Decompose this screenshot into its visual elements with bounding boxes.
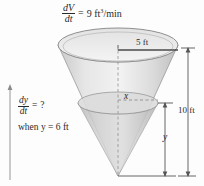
water-height-label-y: y — [163, 133, 167, 143]
dy-dt-fraction: dy dt — [18, 96, 29, 116]
left-up-arrow — [8, 84, 13, 180]
per-minute-unit: /min — [103, 8, 121, 19]
equals-sign: = — [78, 8, 84, 19]
water-radius-label-x: x — [124, 92, 128, 102]
volume-rate-number: 9 ft — [87, 8, 101, 19]
dy-numerator: dy — [18, 96, 29, 107]
dt-denominator: dt — [62, 14, 75, 24]
rate-of-volume-equation: dV dt = 9 ft3/min — [62, 3, 122, 24]
volume-rate-value: 9 ft3/min — [87, 8, 122, 20]
condition-label: when y = 6 ft — [18, 123, 69, 133]
rate-of-height-equation: dy dt = ? — [18, 96, 45, 116]
height-label-10ft: 10 ft — [178, 106, 195, 115]
cone-diagram-graphic — [0, 0, 204, 186]
equals-sign-left: = — [32, 101, 37, 111]
unknown-value: ? — [40, 101, 44, 111]
dv-dt-fraction: dV dt — [62, 3, 75, 24]
radius-label-5ft: 5 ft — [136, 38, 148, 47]
cone-related-rates-figure: dV dt = 9 ft3/min dy dt = ? when y = 6 f… — [0, 0, 204, 186]
dt-denominator-left: dt — [18, 107, 29, 117]
